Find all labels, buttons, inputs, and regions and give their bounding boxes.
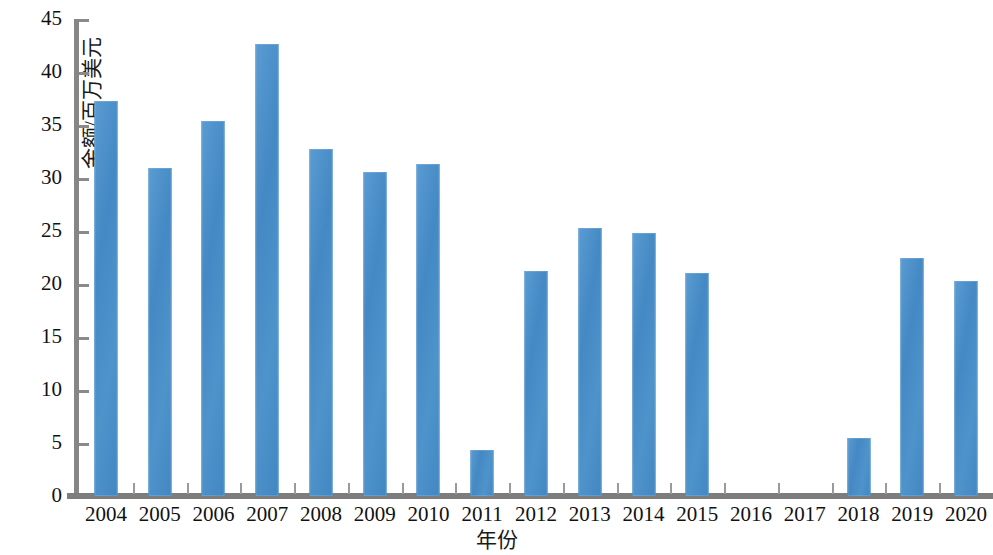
x-tick-mark bbox=[670, 483, 672, 494]
x-axis-tick-labels: 2004200520062007200820092010201120122013… bbox=[79, 504, 993, 532]
y-tick-label: 45 bbox=[22, 8, 62, 29]
x-tick-label-2004: 2004 bbox=[79, 504, 133, 525]
bar-2008[interactable] bbox=[309, 149, 332, 496]
x-tick-mark bbox=[509, 483, 511, 494]
bar-2005[interactable] bbox=[148, 168, 171, 496]
x-tick-label-2006: 2006 bbox=[187, 504, 241, 525]
plot-area bbox=[79, 19, 993, 496]
x-tick-label-2009: 2009 bbox=[348, 504, 402, 525]
y-tick-mark bbox=[79, 178, 89, 181]
x-tick-mark bbox=[240, 483, 242, 494]
y-tick-mark bbox=[79, 72, 89, 75]
bar-slot bbox=[187, 19, 241, 496]
bar-2010[interactable] bbox=[417, 164, 440, 496]
bar-2018[interactable] bbox=[847, 438, 870, 496]
x-tick-label-2014: 2014 bbox=[617, 504, 671, 525]
bar-slot bbox=[885, 19, 939, 496]
bar-slot bbox=[348, 19, 402, 496]
bar-slot bbox=[79, 19, 133, 496]
bar-2019[interactable] bbox=[901, 258, 924, 497]
x-tick-mark bbox=[939, 483, 941, 494]
y-tick-label: 20 bbox=[22, 273, 62, 294]
x-tick-label-2008: 2008 bbox=[294, 504, 348, 525]
bar-slot bbox=[240, 19, 294, 496]
bar-2009[interactable] bbox=[363, 172, 386, 496]
x-axis-title: 年份 bbox=[0, 530, 993, 551]
y-tick-label: 40 bbox=[22, 61, 62, 82]
x-tick-label-2012: 2012 bbox=[509, 504, 563, 525]
bar-slot bbox=[939, 19, 993, 496]
x-tick-mark bbox=[832, 483, 834, 494]
x-tick-label-2007: 2007 bbox=[240, 504, 294, 525]
x-tick-mark bbox=[133, 483, 135, 494]
bar-2004[interactable] bbox=[94, 101, 117, 496]
y-tick-mark bbox=[79, 390, 89, 393]
y-axis-tick-labels: 051015202530354045 bbox=[16, 0, 62, 520]
x-tick-mark bbox=[885, 483, 887, 494]
x-tick-label-2010: 2010 bbox=[402, 504, 456, 525]
y-tick-label: 35 bbox=[22, 114, 62, 135]
x-tick-mark bbox=[455, 483, 457, 494]
x-tick-label-2018: 2018 bbox=[832, 504, 886, 525]
y-tick-label: 25 bbox=[22, 220, 62, 241]
y-tick-label: 5 bbox=[22, 432, 62, 453]
bar-slot bbox=[778, 19, 832, 496]
y-tick-mark bbox=[79, 337, 89, 340]
x-tick-mark bbox=[402, 483, 404, 494]
y-tick-mark bbox=[79, 284, 89, 287]
bar-slot bbox=[724, 19, 778, 496]
x-tick-label-2019: 2019 bbox=[885, 504, 939, 525]
x-tick-mark bbox=[724, 483, 726, 494]
x-tick-label-2011: 2011 bbox=[455, 504, 509, 525]
bar-2015[interactable] bbox=[686, 273, 709, 496]
bar-slot bbox=[509, 19, 563, 496]
bar-slot bbox=[455, 19, 509, 496]
x-tick-label-2016: 2016 bbox=[724, 504, 778, 525]
x-tick-label-2017: 2017 bbox=[778, 504, 832, 525]
y-tick-mark bbox=[79, 231, 89, 234]
y-tick-label: 30 bbox=[22, 167, 62, 188]
y-tick-label: 0 bbox=[22, 485, 62, 506]
bar-2013[interactable] bbox=[578, 228, 601, 496]
bar-slot bbox=[670, 19, 724, 496]
bar-slot bbox=[294, 19, 348, 496]
bar-2012[interactable] bbox=[524, 271, 547, 496]
x-tick-mark bbox=[778, 483, 780, 494]
bar-slot bbox=[402, 19, 456, 496]
bar-2014[interactable] bbox=[632, 233, 655, 496]
y-tick-label: 15 bbox=[22, 326, 62, 347]
x-tick-label-2005: 2005 bbox=[133, 504, 187, 525]
x-tick-mark bbox=[187, 483, 189, 494]
x-tick-mark bbox=[294, 483, 296, 494]
x-tick-mark bbox=[617, 483, 619, 494]
bar-slot bbox=[832, 19, 886, 496]
y-tick-mark bbox=[79, 443, 89, 446]
bar-slot bbox=[617, 19, 671, 496]
x-tick-label-2015: 2015 bbox=[670, 504, 724, 525]
x-tick-label-2020: 2020 bbox=[939, 504, 993, 525]
bar-slot bbox=[563, 19, 617, 496]
bar-2011[interactable] bbox=[471, 450, 494, 496]
y-tick-mark bbox=[79, 125, 89, 128]
bar-chart: 金额/百万美元 051015202530354045 2004200520062… bbox=[0, 0, 993, 555]
y-tick-mark bbox=[79, 19, 89, 22]
bar-2006[interactable] bbox=[202, 121, 225, 496]
bar-slot bbox=[133, 19, 187, 496]
y-tick-label: 10 bbox=[22, 379, 62, 400]
x-tick-mark bbox=[348, 483, 350, 494]
x-tick-label-2013: 2013 bbox=[563, 504, 617, 525]
bar-2020[interactable] bbox=[955, 281, 978, 496]
x-tick-mark bbox=[563, 483, 565, 494]
bar-2007[interactable] bbox=[256, 44, 279, 496]
